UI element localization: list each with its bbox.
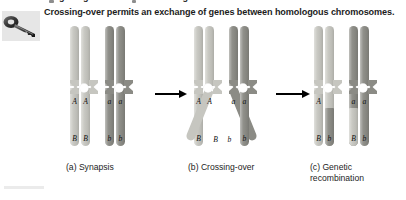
chromatid-upper-arm <box>70 26 79 86</box>
allele-label: a <box>229 98 238 106</box>
allele-label: a <box>360 98 369 106</box>
allele-label: a <box>105 98 114 106</box>
chromatid-upper-arm <box>349 26 358 86</box>
allele-label: B <box>349 135 358 143</box>
allele-label: b <box>105 135 114 143</box>
allele-label: B <box>314 135 323 143</box>
arrow-head <box>302 90 310 98</box>
allele-label: b <box>240 135 249 143</box>
centromere <box>70 80 98 94</box>
arrow-shaft <box>155 93 180 95</box>
chromosome-field-c: A B b a <box>306 22 406 152</box>
allele-label: B <box>81 135 90 143</box>
centromere <box>105 80 133 94</box>
centromere-dot <box>80 84 88 92</box>
panel-caption-genetic-recombination: (c) Genetic recombination <box>310 162 364 184</box>
chromatid-upper-arm <box>325 26 334 86</box>
allele-label: b <box>360 135 369 143</box>
allele-label: b <box>225 136 234 144</box>
centromere-dot <box>115 84 123 92</box>
scan-artifact-bar <box>4 186 44 189</box>
chromatid-upper-arm <box>105 26 114 86</box>
clipped-glyph-1 <box>49 0 54 3</box>
centromere-dot <box>239 84 247 92</box>
clipped-glyph-2 <box>132 0 136 3</box>
allele-label: A <box>70 98 79 106</box>
allele-label: a <box>349 98 358 106</box>
chromatid-upper-arm <box>81 26 90 86</box>
panel-synapsis: A A B B a a <box>62 22 162 200</box>
figure-caption: Crossing-over permits an exchange of gen… <box>44 7 400 17</box>
allele-label: B <box>70 135 79 143</box>
chromatid-upper-arm <box>229 26 238 86</box>
centromere <box>194 80 222 94</box>
allele-label: A <box>314 98 323 106</box>
panel-crossing-over: A A B b <box>186 22 286 200</box>
allele-label: A <box>194 98 203 106</box>
centromere-dot <box>204 84 212 92</box>
chromatid-upper-arm <box>240 26 249 86</box>
figure-crossing-over: exchange of genes between homologous Cro… <box>0 0 406 200</box>
diagram-stage: A A B B a a <box>0 22 406 200</box>
centromere-dot <box>359 84 367 92</box>
arrow-synapsis-to-crossing-over <box>155 90 187 99</box>
arrow-shaft <box>276 93 303 95</box>
allele-label: a <box>240 98 249 106</box>
chromatid-upper-arm <box>116 26 125 86</box>
chromatid-upper-arm <box>360 26 369 86</box>
allele-label: A <box>81 98 90 106</box>
centromere <box>314 80 342 94</box>
panel-caption-synapsis: (a) Synapsis <box>66 162 114 173</box>
chromatid-upper-arm <box>194 26 203 86</box>
panel-genetic-recombination: A B b a <box>306 22 406 200</box>
allele-label: A <box>205 98 214 106</box>
chromosome-field-b: A A B b <box>186 22 286 152</box>
chromatid-upper-arm <box>205 26 214 86</box>
centromere <box>229 80 257 94</box>
chromosome-field-a: A A B B a a <box>62 22 162 152</box>
allele-label: b <box>325 135 334 143</box>
centromere <box>349 80 377 94</box>
allele-label: a <box>116 98 125 106</box>
clipped-header-row: exchange of genes between homologous <box>0 0 406 6</box>
allele-label: b <box>116 135 125 143</box>
arrow-head <box>179 90 187 98</box>
centromere-dot <box>324 84 332 92</box>
allele-label: B <box>194 135 203 143</box>
arrow-crossing-over-to-recombination <box>276 90 310 99</box>
clipped-header-text: exchange of genes between homologous <box>28 0 204 2</box>
panel-caption-crossing-over: (b) Crossing-over <box>188 162 254 173</box>
allele-label: B <box>211 136 220 144</box>
chromatid-upper-arm <box>314 26 323 86</box>
